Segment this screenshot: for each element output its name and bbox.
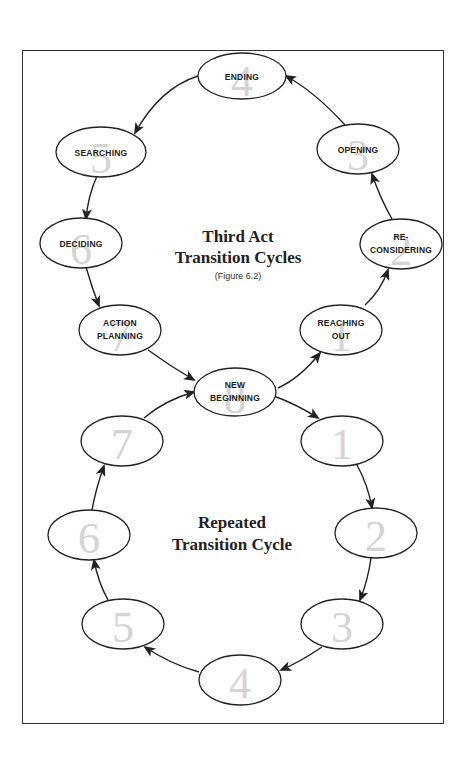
node-number-watermark: 6 (70, 225, 92, 274)
transition-cycles-diagram: 4 Ending 3 Opening 5 Searching 2 Re- con… (0, 0, 472, 764)
node-label-line1: Reaching (318, 318, 365, 328)
node-number: 6 (78, 514, 100, 563)
node-reconsidering: 2 Re- considering (360, 219, 442, 275)
node-new-beginning: 8 New Beginning (194, 368, 276, 423)
node-label-line1: Re- (393, 232, 408, 242)
edge-3-to-4 (281, 647, 322, 670)
node-label: Deciding (59, 239, 102, 249)
node-number-watermark: 3 (347, 131, 369, 180)
node-number: 4 (229, 659, 251, 708)
node-lower-6: 6 (48, 510, 130, 563)
node-number: 5 (112, 603, 134, 652)
node-lower-4: 4 (199, 655, 281, 708)
edge-new-beginning-to-reaching-out (278, 353, 320, 388)
node-label-line2: Planning (97, 331, 143, 341)
title-line1: Third Act (202, 227, 274, 246)
title-line2: Transition Cycle (172, 535, 293, 554)
edge-new-beginning-to-1 (274, 396, 318, 418)
edge-ending-to-searching (135, 76, 198, 133)
node-number: 7 (111, 420, 133, 469)
edge-1-to-2 (357, 465, 372, 508)
node-lower-5: 5 (82, 599, 164, 652)
edge-action-planning-to-new-beginning (148, 350, 194, 380)
edge-4-to-5 (145, 647, 199, 672)
node-lower-2: 2 (335, 508, 417, 561)
title-line2: Transition Cycles (175, 248, 302, 267)
figure-caption: (Figure 6.2) (215, 271, 262, 281)
node-number: 3 (331, 603, 353, 652)
edge-2-to-3 (360, 558, 371, 600)
node-lower-3: 3 (301, 599, 383, 652)
node-ending: 4 Ending (198, 53, 286, 106)
node-label: Opening (338, 145, 379, 155)
node-label-line2: Out (332, 331, 351, 341)
node-number: 2 (365, 512, 387, 561)
node-number-watermark: 5 (90, 134, 112, 183)
node-label-line2: Beginning (210, 393, 260, 403)
edge-6-to-7 (92, 466, 104, 510)
edge-7-to-new-beginning (144, 392, 194, 418)
node-deciding: 6 Deciding (40, 218, 122, 274)
upper-cycle-title: Third Act Transition Cycles (Figure 6.2) (175, 227, 302, 281)
title-line1: Repeated (198, 513, 267, 532)
node-reaching-out: 1 Reaching Out (300, 305, 382, 361)
node-action-planning: 7 Action Planning (79, 305, 161, 361)
node-searching: 5 Searching (56, 127, 146, 183)
node-label-line1: New (225, 380, 246, 390)
edge-reaching-out-to-reconsidering (365, 270, 388, 305)
lower-cycle-title: Repeated Transition Cycle (172, 513, 293, 554)
edge-reconsidering-to-opening (372, 174, 392, 219)
node-lower-7: 7 (81, 416, 163, 469)
edge-opening-to-ending (286, 76, 345, 125)
node-number: 1 (331, 420, 353, 469)
node-label: Searching (75, 148, 128, 158)
edge-5-to-6 (94, 560, 108, 600)
node-label: Ending (225, 72, 259, 82)
node-opening: 3 Opening (317, 124, 399, 180)
node-label-line2: considering (370, 245, 432, 255)
node-lower-1: 1 (301, 416, 383, 469)
node-label-line1: Action (103, 318, 137, 328)
